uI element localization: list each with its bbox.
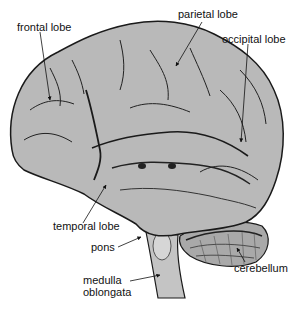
label-parietal-lobe: parietal lobe <box>178 8 238 20</box>
label-medulla-line1: medulla <box>83 274 122 286</box>
label-medulla-line2: oblongata <box>83 286 131 298</box>
cerebrum-shape <box>11 21 284 236</box>
label-temporal-lobe: temporal lobe <box>53 220 120 232</box>
label-frontal-lobe: frontal lobe <box>17 21 71 33</box>
label-cerebellum: cerebellum <box>234 262 288 274</box>
label-occipital-lobe: occipital lobe <box>222 33 286 45</box>
label-pons: pons <box>91 241 115 253</box>
